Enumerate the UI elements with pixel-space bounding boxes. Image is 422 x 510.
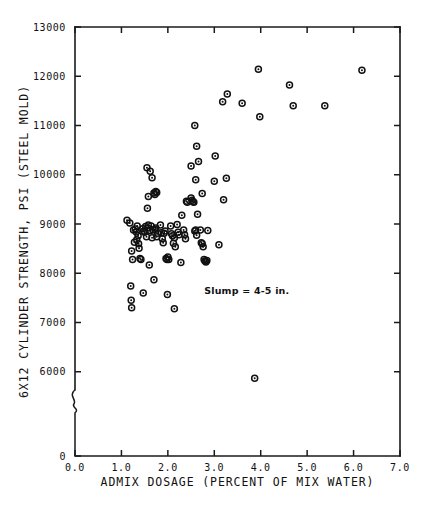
data-point bbox=[160, 240, 166, 246]
y-tick-label-12000: 12000 bbox=[33, 71, 66, 82]
y-tick-label-6000: 6000 bbox=[40, 366, 66, 377]
y-tick-label-10000: 10000 bbox=[33, 169, 66, 180]
data-point bbox=[149, 175, 155, 181]
scatter-plot-figure: 06000700080009000100001100012000130000.0… bbox=[0, 0, 422, 510]
y-tick-label-9000: 9000 bbox=[40, 219, 66, 230]
data-point bbox=[359, 67, 365, 73]
data-point bbox=[221, 197, 227, 203]
x-tick-label-4.0: 4.0 bbox=[251, 462, 271, 473]
data-point bbox=[255, 66, 261, 72]
data-point bbox=[223, 175, 229, 181]
data-point bbox=[224, 91, 230, 97]
data-point bbox=[216, 242, 222, 248]
data-point bbox=[130, 256, 136, 262]
data-point bbox=[211, 178, 217, 184]
data-point bbox=[257, 114, 263, 120]
data-point bbox=[151, 277, 157, 283]
data-point bbox=[193, 177, 199, 183]
data-point bbox=[196, 158, 202, 164]
x-tick-label-3.0: 3.0 bbox=[204, 462, 224, 473]
data-point bbox=[188, 163, 194, 169]
x-tick-label-2.0: 2.0 bbox=[158, 462, 178, 473]
data-point bbox=[178, 259, 184, 265]
data-point bbox=[168, 223, 174, 229]
data-point bbox=[287, 82, 293, 88]
y-axis-title: 6X12 CYLINDER STRENGTH, PSI (STEEL MOLD) bbox=[17, 85, 31, 398]
data-point bbox=[171, 306, 177, 312]
y-tick-label-13000: 13000 bbox=[33, 22, 66, 33]
y-tick-label-7000: 7000 bbox=[40, 317, 66, 328]
data-point bbox=[199, 190, 205, 196]
data-point bbox=[252, 375, 258, 381]
data-point bbox=[128, 297, 134, 303]
y-tick-label-0: 0 bbox=[59, 451, 66, 462]
data-point bbox=[322, 103, 328, 109]
data-point bbox=[212, 153, 218, 159]
data-point bbox=[192, 123, 198, 129]
x-tick-label-0.0: 0.0 bbox=[65, 462, 85, 473]
data-point bbox=[157, 222, 163, 228]
data-point bbox=[129, 248, 135, 254]
y-axis-break-symbol bbox=[72, 390, 76, 456]
slump-annotation: Slump = 4-5 in. bbox=[204, 285, 289, 296]
x-tick-label-7.0: 7.0 bbox=[390, 462, 410, 473]
chart-canvas: 06000700080009000100001100012000130000.0… bbox=[0, 0, 422, 510]
data-point bbox=[290, 103, 296, 109]
data-point bbox=[146, 262, 152, 268]
data-point bbox=[239, 100, 245, 106]
data-point bbox=[195, 211, 201, 217]
x-axis-title: ADMIX DOSAGE (PERCENT OF MIX WATER) bbox=[101, 475, 375, 489]
data-point bbox=[194, 143, 200, 149]
y-tick-label-8000: 8000 bbox=[40, 268, 66, 279]
x-tick-label-5.0: 5.0 bbox=[297, 462, 317, 473]
data-point bbox=[140, 290, 146, 296]
data-point bbox=[183, 236, 189, 242]
data-points-layer bbox=[124, 66, 365, 381]
x-tick-label-1.0: 1.0 bbox=[111, 462, 131, 473]
data-point bbox=[144, 205, 150, 211]
data-point bbox=[129, 305, 135, 311]
y-tick-label-11000: 11000 bbox=[33, 120, 66, 131]
data-point bbox=[128, 283, 134, 289]
data-point bbox=[164, 291, 170, 297]
x-tick-label-6.0: 6.0 bbox=[344, 462, 364, 473]
data-point bbox=[220, 99, 226, 105]
data-point bbox=[174, 221, 180, 227]
data-point bbox=[205, 227, 211, 233]
data-point bbox=[179, 212, 185, 218]
